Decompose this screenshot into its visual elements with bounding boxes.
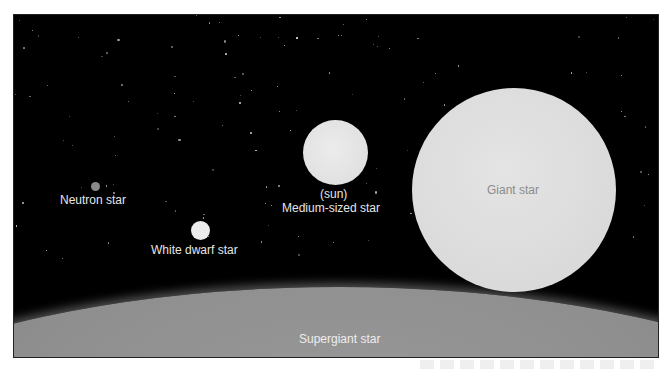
background-star-dot bbox=[618, 37, 619, 38]
background-star-dot bbox=[279, 111, 280, 112]
background-star-dot bbox=[277, 86, 278, 87]
background-star-dot bbox=[69, 116, 70, 117]
background-star-dot bbox=[368, 240, 369, 241]
background-star-dot bbox=[106, 52, 108, 54]
background-star-dot bbox=[317, 38, 318, 39]
background-star-dot bbox=[343, 24, 344, 25]
background-star-dot bbox=[175, 210, 176, 211]
background-star-dot bbox=[278, 37, 279, 38]
background-star-dot bbox=[174, 76, 175, 77]
background-star-dot bbox=[375, 191, 377, 193]
background-star-dot bbox=[22, 202, 24, 204]
background-star-dot bbox=[373, 44, 374, 45]
background-star-dot bbox=[341, 35, 342, 36]
background-star-dot bbox=[101, 56, 102, 57]
star-size-comparison-figure: Supergiant star Neutron star White dwarf… bbox=[13, 14, 659, 358]
background-star-dot bbox=[128, 101, 129, 102]
background-star-dot bbox=[378, 36, 379, 37]
background-star-dot bbox=[284, 45, 285, 46]
supergiant-star bbox=[13, 287, 659, 358]
neutron-star-label: Neutron star bbox=[60, 194, 126, 207]
background-star-dot bbox=[212, 169, 214, 171]
background-star-dot bbox=[106, 185, 107, 186]
background-star-dot bbox=[219, 22, 220, 23]
background-star-dot bbox=[260, 37, 261, 38]
background-star-dot bbox=[621, 75, 622, 76]
background-star-dot bbox=[296, 110, 297, 111]
background-star-dot bbox=[157, 128, 159, 130]
background-star-dot bbox=[338, 35, 339, 36]
background-star-dot bbox=[389, 48, 390, 49]
background-star-dot bbox=[265, 203, 266, 204]
background-star-dot bbox=[208, 236, 209, 237]
background-star-dot bbox=[239, 102, 241, 104]
background-star-dot bbox=[16, 225, 17, 226]
white-dwarf-star-label: White dwarf star bbox=[151, 244, 238, 257]
background-star-dot bbox=[271, 205, 272, 206]
background-star-dot bbox=[81, 187, 82, 188]
background-star-dot bbox=[298, 236, 299, 237]
background-star-dot bbox=[407, 150, 408, 151]
background-star-dot bbox=[633, 236, 634, 237]
background-star-dot bbox=[624, 116, 625, 117]
background-star-dot bbox=[578, 36, 580, 38]
background-star-dot bbox=[238, 35, 239, 36]
background-star-dot bbox=[209, 22, 210, 23]
background-star-dot bbox=[423, 82, 424, 83]
background-star-dot bbox=[121, 84, 123, 86]
background-star-dot bbox=[240, 95, 241, 96]
background-star-dot bbox=[296, 37, 297, 38]
background-star-dot bbox=[193, 101, 194, 102]
background-star-dot bbox=[458, 65, 459, 66]
background-star-dot bbox=[178, 139, 180, 141]
background-star-dot bbox=[366, 19, 367, 20]
background-star-dot bbox=[114, 136, 115, 137]
background-star-dot bbox=[115, 155, 116, 156]
sun-sublabel: (sun) bbox=[320, 188, 347, 201]
background-star-dot bbox=[19, 20, 20, 21]
background-star-dot bbox=[165, 201, 166, 202]
background-star-dot bbox=[435, 73, 436, 74]
background-star-dot bbox=[224, 40, 226, 42]
background-star-dot bbox=[333, 242, 334, 243]
background-star-dot bbox=[171, 46, 173, 48]
background-star-dot bbox=[268, 225, 269, 226]
background-star-dot bbox=[63, 140, 64, 141]
background-star-dot bbox=[174, 93, 175, 94]
background-star-dot bbox=[108, 242, 109, 243]
background-star-dot bbox=[644, 205, 645, 206]
background-star-dot bbox=[29, 96, 30, 97]
background-star-dot bbox=[250, 132, 252, 134]
background-star-dot bbox=[444, 104, 445, 105]
white-dwarf-star bbox=[191, 221, 210, 240]
background-star-dot bbox=[113, 184, 114, 185]
background-star-dot bbox=[72, 145, 73, 146]
background-star-dot bbox=[298, 254, 300, 256]
background-star-dot bbox=[78, 37, 79, 38]
background-star-dot bbox=[261, 241, 262, 242]
background-star-dot bbox=[640, 171, 642, 173]
background-star-dot bbox=[196, 15, 197, 16]
background-star-dot bbox=[46, 250, 47, 251]
background-star-dot bbox=[242, 73, 244, 75]
medium-sized-star-sun bbox=[303, 120, 368, 185]
background-star-dot bbox=[174, 116, 175, 117]
background-star-dot bbox=[117, 39, 119, 41]
background-star-dot bbox=[255, 150, 256, 151]
background-star-dot bbox=[377, 46, 378, 47]
background-star-dot bbox=[290, 130, 291, 131]
background-star-dot bbox=[352, 94, 353, 95]
background-star-dot bbox=[62, 258, 63, 259]
background-star-dot bbox=[222, 125, 223, 126]
background-star-dot bbox=[266, 186, 267, 187]
medium-sized-star-label: Medium-sized star bbox=[282, 202, 380, 215]
background-star-dot bbox=[278, 185, 280, 187]
background-star-dot bbox=[279, 17, 280, 18]
background-star-dot bbox=[38, 35, 39, 36]
cropped-caption-text bbox=[420, 360, 660, 369]
supergiant-star-label: Supergiant star bbox=[299, 333, 380, 346]
background-star-dot bbox=[157, 113, 158, 114]
background-star-dot bbox=[417, 38, 418, 39]
background-star-dot bbox=[410, 213, 411, 214]
background-star-dot bbox=[404, 98, 405, 99]
